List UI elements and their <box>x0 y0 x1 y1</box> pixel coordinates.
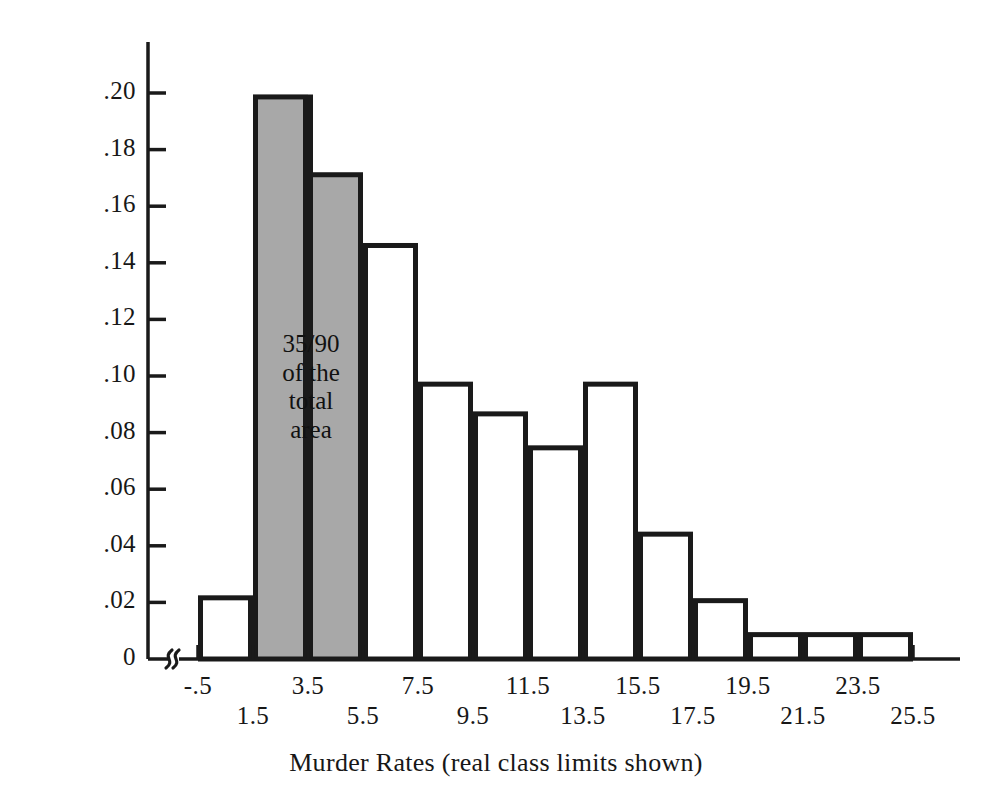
histogram-bar <box>531 448 581 659</box>
x-tick-label: 5.5 <box>313 702 413 730</box>
histogram-bar <box>641 534 691 659</box>
histogram-bar <box>751 635 801 659</box>
y-tick-label: .02 <box>60 586 136 614</box>
x-tick-label: 9.5 <box>423 702 523 730</box>
y-tick-label: .10 <box>60 360 136 388</box>
y-tick-label: .16 <box>60 190 136 218</box>
histogram-bar <box>861 635 911 659</box>
y-tick-label: 0 <box>60 643 136 671</box>
x-tick-label: 25.5 <box>863 702 963 730</box>
histogram-bar <box>696 601 746 659</box>
y-tick-label: .08 <box>60 417 136 445</box>
y-tick-label: .18 <box>60 134 136 162</box>
histogram-bar <box>366 245 416 659</box>
x-tick-label: 17.5 <box>643 702 743 730</box>
y-tick-label: .20 <box>60 77 136 105</box>
x-tick-label: 3.5 <box>258 672 358 700</box>
histogram-bar <box>806 635 856 659</box>
x-tick-label: 1.5 <box>203 702 303 730</box>
y-tick-label: .04 <box>60 530 136 558</box>
histogram-bar <box>476 414 526 659</box>
y-tick-label: .12 <box>60 303 136 331</box>
histogram-figure: 0.02.04.06.08.10.12.14.16.18.20 -.51.53.… <box>0 0 992 786</box>
x-tick-label: 7.5 <box>368 672 468 700</box>
histogram-bar <box>586 384 636 659</box>
y-tick-label: .14 <box>60 247 136 275</box>
x-axis-title: Murder Rates (real class limits shown) <box>0 748 992 778</box>
area-annotation: 35/90 of the total area <box>237 330 385 444</box>
x-tick-label: 21.5 <box>753 702 853 730</box>
x-tick-label: 15.5 <box>588 672 688 700</box>
y-tick-label: .06 <box>60 473 136 501</box>
x-tick-label: -.5 <box>148 672 248 700</box>
x-tick-label: 19.5 <box>698 672 798 700</box>
x-tick-label: 13.5 <box>533 702 633 730</box>
histogram-plot-area <box>0 0 992 786</box>
x-tick-label: 23.5 <box>808 672 908 700</box>
histogram-bar <box>201 598 251 659</box>
histogram-bar <box>421 384 471 659</box>
x-tick-label: 11.5 <box>478 672 578 700</box>
